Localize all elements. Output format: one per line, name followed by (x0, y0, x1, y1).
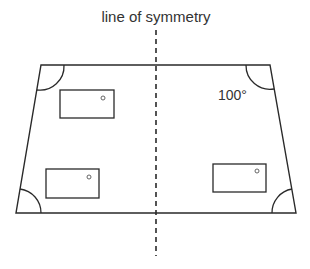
angle-arc-top-right (246, 65, 274, 89)
line-of-symmetry-label: line of symmetry (101, 8, 211, 25)
symmetry-diagram: line of symmetry 100° (0, 0, 310, 269)
knob-icon (101, 96, 105, 100)
angle-arc-bottom-right (272, 189, 292, 213)
window-top-left (60, 90, 114, 118)
angle-arc-bottom-left (20, 189, 41, 213)
window-bottom-left (46, 169, 99, 198)
knob-icon (255, 169, 259, 173)
knob-icon (87, 175, 91, 179)
angle-label-100: 100° (218, 87, 247, 103)
window-bottom-right (213, 164, 266, 192)
